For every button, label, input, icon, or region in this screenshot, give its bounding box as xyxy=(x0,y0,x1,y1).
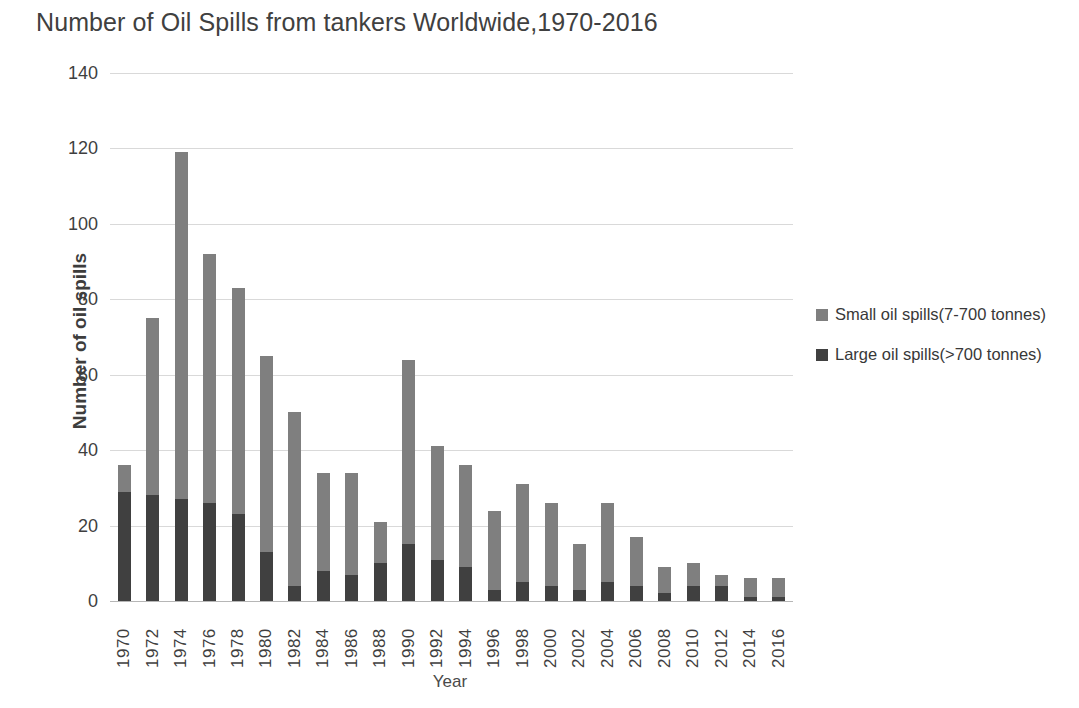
bar-group[interactable] xyxy=(138,73,166,601)
bar-stack[interactable] xyxy=(402,360,415,601)
bar-stack[interactable] xyxy=(317,473,330,601)
bar-segment-large-oil-spills[interactable] xyxy=(374,563,387,601)
bar-group[interactable] xyxy=(395,73,423,601)
bar-segment-large-oil-spills[interactable] xyxy=(288,586,301,601)
bar-stack[interactable] xyxy=(203,254,216,601)
bar-group[interactable] xyxy=(451,73,479,601)
bar-segment-large-oil-spills[interactable] xyxy=(715,586,728,601)
bar-segment-small-oil-spills[interactable] xyxy=(630,537,643,586)
bar-segment-large-oil-spills[interactable] xyxy=(175,499,188,601)
bar-group[interactable] xyxy=(338,73,366,601)
bar-stack[interactable] xyxy=(232,288,245,601)
bar-segment-large-oil-spills[interactable] xyxy=(317,571,330,601)
bar-stack[interactable] xyxy=(772,578,785,601)
bar-stack[interactable] xyxy=(459,465,472,601)
bar-segment-large-oil-spills[interactable] xyxy=(345,575,358,601)
bar-stack[interactable] xyxy=(516,484,529,601)
bar-stack[interactable] xyxy=(260,356,273,601)
bar-segment-large-oil-spills[interactable] xyxy=(630,586,643,601)
bar-segment-small-oil-spills[interactable] xyxy=(175,152,188,499)
bar-group[interactable] xyxy=(736,73,764,601)
bar-segment-small-oil-spills[interactable] xyxy=(687,563,700,586)
bar-group[interactable] xyxy=(366,73,394,601)
bar-group[interactable] xyxy=(679,73,707,601)
bar-stack[interactable] xyxy=(345,473,358,601)
bar-group[interactable] xyxy=(224,73,252,601)
bar-group[interactable] xyxy=(281,73,309,601)
bar-segment-small-oil-spills[interactable] xyxy=(374,522,387,563)
bar-group[interactable] xyxy=(537,73,565,601)
bar-segment-large-oil-spills[interactable] xyxy=(687,586,700,601)
bar-stack[interactable] xyxy=(374,522,387,601)
bar-group[interactable] xyxy=(622,73,650,601)
legend-swatch-icon xyxy=(816,349,828,361)
bar-segment-large-oil-spills[interactable] xyxy=(431,560,444,601)
legend-item[interactable]: Large oil spills(>700 tonnes) xyxy=(816,345,1074,364)
bar-segment-large-oil-spills[interactable] xyxy=(545,586,558,601)
bar-segment-small-oil-spills[interactable] xyxy=(459,465,472,567)
bar-stack[interactable] xyxy=(573,544,586,601)
bar-group[interactable] xyxy=(423,73,451,601)
bar-segment-large-oil-spills[interactable] xyxy=(260,552,273,601)
bar-segment-large-oil-spills[interactable] xyxy=(658,593,671,601)
bar-group[interactable] xyxy=(764,73,792,601)
bar-segment-large-oil-spills[interactable] xyxy=(516,582,529,601)
bar-segment-small-oil-spills[interactable] xyxy=(744,578,757,597)
bar-group[interactable] xyxy=(651,73,679,601)
bar-stack[interactable] xyxy=(744,578,757,601)
bar-group[interactable] xyxy=(252,73,280,601)
bar-segment-large-oil-spills[interactable] xyxy=(459,567,472,601)
bar-stack[interactable] xyxy=(118,465,131,601)
bar-segment-small-oil-spills[interactable] xyxy=(715,575,728,586)
bar-segment-small-oil-spills[interactable] xyxy=(431,446,444,559)
bar-segment-large-oil-spills[interactable] xyxy=(232,514,245,601)
bar-group[interactable] xyxy=(708,73,736,601)
bar-segment-small-oil-spills[interactable] xyxy=(232,288,245,514)
bar-group[interactable] xyxy=(110,73,138,601)
bar-group[interactable] xyxy=(594,73,622,601)
bar-segment-large-oil-spills[interactable] xyxy=(203,503,216,601)
bar-segment-small-oil-spills[interactable] xyxy=(601,503,614,582)
bar-segment-large-oil-spills[interactable] xyxy=(772,597,785,601)
bar-stack[interactable] xyxy=(288,412,301,601)
bar-stack[interactable] xyxy=(630,537,643,601)
bar-segment-small-oil-spills[interactable] xyxy=(345,473,358,575)
bar-segment-large-oil-spills[interactable] xyxy=(118,492,131,601)
bar-group[interactable] xyxy=(508,73,536,601)
bar-stack[interactable] xyxy=(687,563,700,601)
bar-group[interactable] xyxy=(309,73,337,601)
bar-segment-small-oil-spills[interactable] xyxy=(402,360,415,545)
bar-segment-large-oil-spills[interactable] xyxy=(573,590,586,601)
bar-segment-large-oil-spills[interactable] xyxy=(402,544,415,601)
bar-stack[interactable] xyxy=(545,503,558,601)
bar-group[interactable] xyxy=(195,73,223,601)
bar-segment-small-oil-spills[interactable] xyxy=(288,412,301,585)
bar-stack[interactable] xyxy=(488,511,501,602)
bar-stack[interactable] xyxy=(601,503,614,601)
bar-stack[interactable] xyxy=(658,567,671,601)
bar-group[interactable] xyxy=(167,73,195,601)
bar-segment-large-oil-spills[interactable] xyxy=(488,590,501,601)
bar-segment-large-oil-spills[interactable] xyxy=(601,582,614,601)
chart-legend: Small oil spills(7-700 tonnes)Large oil … xyxy=(816,305,1074,385)
bar-stack[interactable] xyxy=(715,575,728,601)
bar-stack[interactable] xyxy=(175,152,188,601)
bar-segment-small-oil-spills[interactable] xyxy=(146,318,159,495)
bar-segment-small-oil-spills[interactable] xyxy=(658,567,671,593)
legend-item[interactable]: Small oil spills(7-700 tonnes) xyxy=(816,305,1074,324)
bar-stack[interactable] xyxy=(146,318,159,601)
bar-segment-large-oil-spills[interactable] xyxy=(146,495,159,601)
bar-segment-small-oil-spills[interactable] xyxy=(545,503,558,586)
bar-stack[interactable] xyxy=(431,446,444,601)
bar-segment-large-oil-spills[interactable] xyxy=(744,597,757,601)
bar-segment-small-oil-spills[interactable] xyxy=(118,465,131,491)
bar-segment-small-oil-spills[interactable] xyxy=(516,484,529,582)
bar-segment-small-oil-spills[interactable] xyxy=(573,544,586,589)
bar-segment-small-oil-spills[interactable] xyxy=(317,473,330,571)
bar-segment-small-oil-spills[interactable] xyxy=(772,578,785,597)
bar-segment-small-oil-spills[interactable] xyxy=(488,511,501,590)
bar-segment-small-oil-spills[interactable] xyxy=(203,254,216,503)
bar-group[interactable] xyxy=(480,73,508,601)
bar-segment-small-oil-spills[interactable] xyxy=(260,356,273,552)
bar-group[interactable] xyxy=(565,73,593,601)
